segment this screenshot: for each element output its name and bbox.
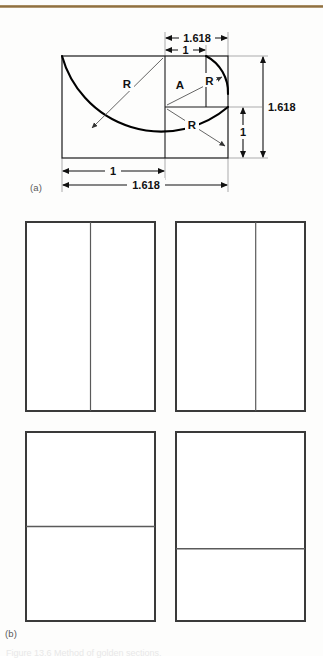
panel-a-label: (a) [30,182,42,193]
radius-label-2: R [188,119,197,131]
dim-bottom-inner-label: 1 [110,165,116,177]
dim-bottom-1618: 1.618 [63,178,227,192]
dim-right-1: 1 [236,108,250,157]
rect-bottom-right [176,432,305,621]
dim-bottom-outer-label: 1.618 [132,179,160,191]
rect-bottom-left [26,432,155,621]
rect-top-right [176,222,305,411]
radius-arrow-upper-left: R [92,58,163,128]
panel-a-golden-construction: 1.618 1 [0,14,323,196]
large-arc [62,56,228,132]
dim-bottom-1: 1 [63,164,164,178]
panel-b-rectangles [0,210,323,630]
rectangles-svg [0,210,323,630]
dim-right-outer-label: 1.618 [268,101,296,113]
internal-divisions [165,56,228,158]
radius-label-3: R [205,75,214,87]
rect-top-left [26,222,155,411]
point-label-a: A [176,79,184,91]
dim-top-outer-label: 1.618 [183,32,211,44]
radius-label-1: R [123,78,132,90]
golden-construction-svg: 1.618 1 [0,14,323,196]
dim-right-inner-label: 1 [240,126,246,138]
panel-b-label: (b) [5,628,17,639]
dim-right-1618: 1.618 [263,57,304,157]
dim-top-1618: 1.618 [166,31,227,45]
figure-caption: Figure 13.6 Method of golden sections. [6,648,321,658]
dim-top-inner-label: 1 [182,44,188,56]
page-top-rule [0,5,323,8]
dim-top-1: 1 [166,43,205,57]
rect-bottom-right-outline [176,432,305,621]
rect-top-right-outline [176,222,305,411]
